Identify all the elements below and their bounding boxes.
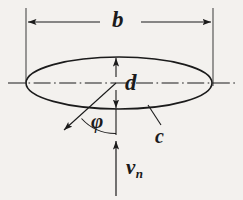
label-velocity-subscript: n: [136, 166, 143, 181]
slant-direction-arrow: [64, 83, 116, 130]
ellipse-diagram-figure: b d φ c vn: [0, 0, 243, 200]
label-velocity-base: v: [126, 155, 135, 179]
label-angle-phi: φ: [91, 111, 103, 132]
label-major-axis-b: b: [112, 8, 124, 31]
label-velocity-vn: vn: [126, 157, 143, 180]
leader-line-c: [148, 105, 161, 125]
label-minor-axis-d: d: [125, 71, 137, 94]
label-contour-c: c: [155, 126, 164, 146]
